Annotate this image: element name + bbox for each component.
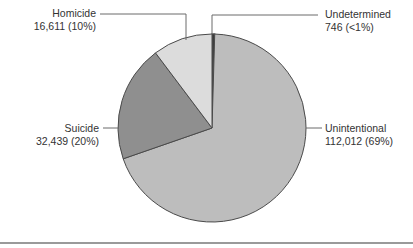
leader-line-undetermined: [212, 15, 318, 34]
label-undetermined: Undetermined 746 (<1%): [325, 8, 391, 34]
label-suicide: Suicide 32,439 (20%): [36, 122, 99, 148]
leader-line-homicide: [100, 14, 186, 40]
label-homicide-value: 16,611 (10%): [34, 20, 96, 33]
label-homicide: Homicide 16,611 (10%): [34, 7, 96, 33]
label-suicide-name: Suicide: [36, 122, 99, 135]
label-homicide-name: Homicide: [34, 7, 96, 20]
label-unintentional: Unintentional 112,012 (69%): [325, 122, 393, 148]
label-suicide-value: 32,439 (20%): [36, 135, 99, 148]
bottom-divider: [0, 242, 413, 244]
label-undetermined-name: Undetermined: [325, 8, 391, 21]
pie-slices: [118, 34, 306, 222]
label-undetermined-value: 746 (<1%): [325, 21, 391, 34]
label-unintentional-name: Unintentional: [325, 122, 393, 135]
label-unintentional-value: 112,012 (69%): [325, 135, 393, 148]
